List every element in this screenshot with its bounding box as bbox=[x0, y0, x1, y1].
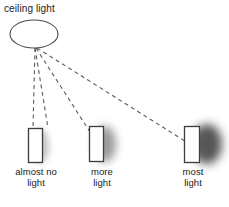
object-label-almost-no-light: almost no light bbox=[0, 166, 72, 188]
ceiling-light-ellipse bbox=[10, 20, 58, 48]
light-ray-4 bbox=[37, 48, 188, 143]
object-rect-3 bbox=[185, 127, 200, 163]
object-rect-2 bbox=[90, 127, 104, 162]
object-label-line: almost no bbox=[0, 166, 72, 177]
bottom-caption bbox=[0, 199, 229, 207]
light-ray-1 bbox=[33, 48, 35, 128]
light-ray-3 bbox=[36, 48, 90, 132]
light-shadow-diagram: ceiling light almost no light more light… bbox=[0, 0, 229, 207]
object-label-line: more bbox=[72, 166, 132, 177]
object-label-line: light bbox=[72, 177, 132, 188]
object-label-line: light bbox=[0, 177, 72, 188]
object-label-most-light: most light bbox=[162, 166, 224, 188]
object-label-line: most bbox=[162, 166, 224, 177]
object-label-more-light: more light bbox=[72, 166, 132, 188]
object-rect-1 bbox=[29, 129, 43, 163]
ceiling-light-label: ceiling light bbox=[4, 3, 55, 14]
object-label-line: light bbox=[162, 177, 224, 188]
light-ray-2 bbox=[35, 48, 48, 128]
